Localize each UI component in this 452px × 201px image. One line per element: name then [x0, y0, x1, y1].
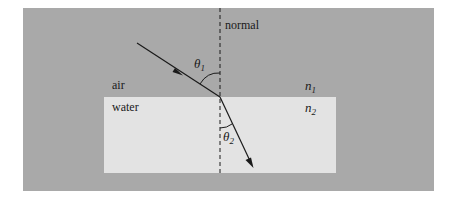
water-label: water [112, 100, 139, 114]
normal-label: normal [225, 18, 260, 32]
air-label: air [112, 78, 125, 92]
refraction-diagram: normal air water n1 n2 θ1 θ2 [0, 0, 452, 201]
